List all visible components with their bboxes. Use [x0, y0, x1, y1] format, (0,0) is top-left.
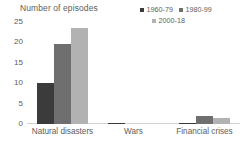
legend-label: 1960-79 [147, 5, 173, 14]
legend-row-primary: 1960-79 1980-99 [140, 5, 242, 14]
bar-chart: Number of episodes 1960-79 1980-99 2000-… [0, 0, 242, 146]
plot-area: 0510152025 [27, 22, 240, 124]
legend-swatch-icon [179, 8, 183, 12]
bar-group [169, 22, 240, 124]
legend-item-1980-99[interactable]: 1980-99 [179, 5, 212, 14]
x-axis-category-label: Financial crises [169, 127, 240, 136]
bar-group [27, 22, 98, 124]
bar-group [98, 22, 169, 124]
y-axis-tick-label: 5 [19, 100, 23, 108]
y-axis-tick-label: 15 [14, 59, 23, 67]
chart-axis-title: Number of episodes [20, 3, 98, 13]
x-axis-category-label: Natural disasters [27, 127, 98, 136]
bar[interactable] [71, 28, 88, 124]
bar[interactable] [213, 118, 230, 124]
x-axis-category-labels: Natural disastersWarsFinancial crises [27, 127, 240, 136]
legend-swatch-icon [140, 8, 144, 12]
legend-label: 1980-99 [185, 5, 211, 14]
y-axis-tick-label: 25 [14, 18, 23, 26]
bar[interactable] [54, 44, 71, 124]
bar[interactable] [196, 116, 213, 124]
bar[interactable] [179, 123, 196, 124]
y-axis-tick-label: 0 [19, 120, 23, 128]
bar[interactable] [108, 123, 125, 124]
x-axis-category-label: Wars [98, 127, 169, 136]
y-axis-tick-label: 20 [14, 38, 23, 46]
y-axis-tick-label: 10 [14, 79, 23, 87]
bar-groups [27, 22, 240, 124]
legend-item-1960-79[interactable]: 1960-79 [140, 5, 173, 14]
bar[interactable] [37, 83, 54, 124]
